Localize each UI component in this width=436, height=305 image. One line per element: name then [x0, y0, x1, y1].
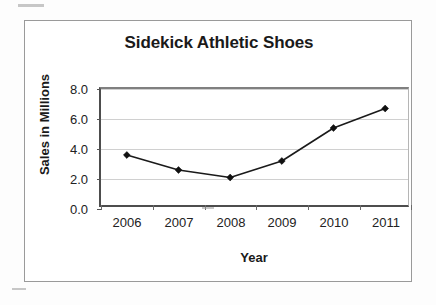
y-tick-label-0: 0.0 — [44, 202, 88, 217]
x-tick-label-2007: 2007 — [151, 215, 207, 230]
data-point-2006 — [123, 152, 130, 159]
x-tick-label-2008: 2008 — [203, 215, 259, 230]
data-point-2011 — [382, 105, 389, 112]
x-tick-label-2010: 2010 — [306, 215, 362, 230]
scan-artifact-axis — [202, 207, 214, 209]
y-tick-label-2: 2.0 — [44, 172, 88, 187]
x-tick-label-2009: 2009 — [254, 215, 310, 230]
series-line — [127, 109, 385, 178]
screenshot-canvas: Sidekick Athletic Shoes Sales in Million… — [0, 0, 436, 305]
chart-title: Sidekick Athletic Shoes — [25, 33, 413, 53]
plot-area: 0.0 2.0 4.0 6.0 8.0 2006 2007 2008 2009 … — [99, 87, 409, 207]
y-tick-label-4: 4.0 — [44, 142, 88, 157]
x-tick-mark-6 — [411, 205, 412, 210]
data-series-sales — [101, 89, 411, 209]
x-tick-label-2011: 2011 — [358, 215, 414, 230]
y-tick-label-6: 6.0 — [44, 112, 88, 127]
x-axis-title: Year — [99, 250, 409, 265]
scan-artifact-top — [18, 4, 44, 7]
y-tick-label-8: 8.0 — [44, 82, 88, 97]
data-point-2007 — [175, 167, 182, 174]
x-tick-label-2006: 2006 — [99, 215, 155, 230]
data-point-2008 — [227, 174, 234, 181]
scan-artifact-bottom — [12, 288, 26, 290]
chart-frame: Sidekick Athletic Shoes Sales in Million… — [24, 20, 412, 282]
